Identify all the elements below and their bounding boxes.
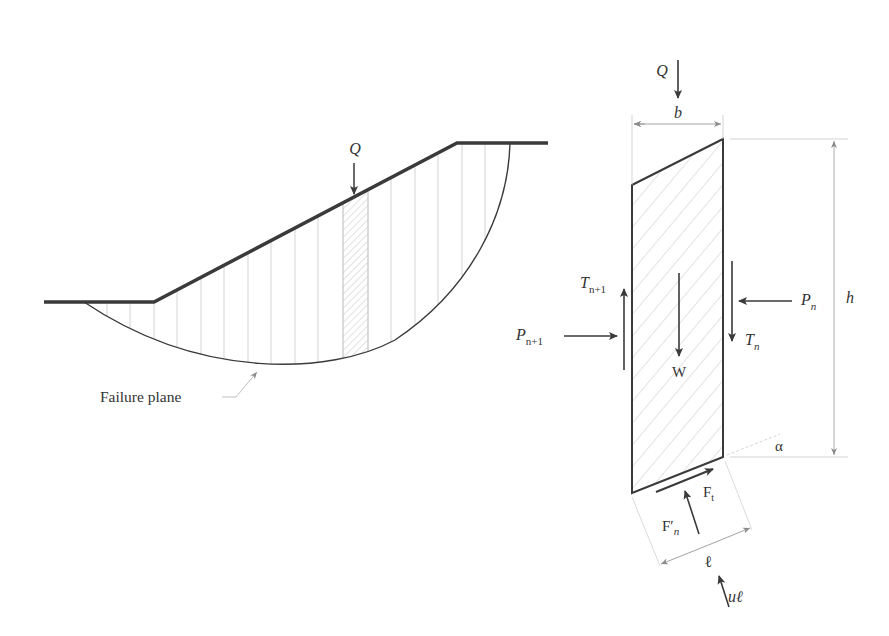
weight-label: W: [672, 364, 687, 380]
slope-load-label: Q: [349, 140, 361, 157]
highlighted-slice: [343, 130, 368, 400]
slice-hatch: [632, 139, 723, 493]
b-label: b: [674, 104, 682, 121]
alpha-label: α: [775, 438, 783, 454]
slice-load-label: Q: [656, 62, 668, 79]
h-label: h: [846, 289, 854, 306]
base-normal-label: F′n: [662, 518, 680, 537]
pore-pressure-label: uℓ: [728, 588, 743, 605]
right-shear-label: Tn: [745, 331, 760, 352]
alpha-reference-line: [727, 434, 780, 455]
ground-surface: [44, 143, 548, 302]
l-label: ℓ: [704, 553, 712, 570]
left-normal-label: Pn+1: [515, 326, 543, 347]
failure-plane-leader: [222, 372, 257, 397]
l-extension-right: [725, 461, 752, 530]
left-shear-label: Tn+1: [580, 274, 606, 295]
failure-plane-label: Failure plane: [100, 388, 181, 405]
l-dimension-right: [706, 528, 750, 546]
right-normal-label: Pn: [800, 291, 817, 312]
slope-section: Q Failure plane: [44, 130, 548, 405]
l-extension-left: [632, 497, 660, 566]
slice-lines: [107, 130, 485, 400]
slice-free-body: Q b h α W Tn+1 Pn+1 Tn Pn: [515, 60, 854, 607]
base-shear-label: Ft: [703, 484, 714, 503]
method-of-slices-diagram: Q Failure plane Q b h α W: [0, 0, 889, 636]
base-normal-arrow: [685, 491, 699, 534]
failure-plane-arc: [84, 143, 510, 364]
l-dimension-left: [661, 546, 706, 564]
